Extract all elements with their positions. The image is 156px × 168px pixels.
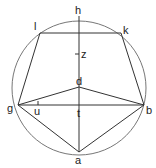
label-d: d (76, 75, 82, 87)
label-g: g (7, 102, 13, 114)
label-u: u (34, 105, 40, 117)
segment-g-a (18, 105, 79, 152)
label-l: l (34, 20, 36, 32)
label-a: a (75, 154, 82, 166)
segment-g-d (18, 87, 79, 105)
label-h: h (75, 4, 81, 16)
segment-b-a (79, 105, 144, 152)
label-z: z (81, 48, 87, 60)
label-b: b (146, 104, 152, 116)
segment-k-b (121, 33, 144, 105)
label-k: k (123, 24, 129, 36)
segment-d-b (79, 87, 144, 105)
geometry-diagram: h l k z d g u t b a (0, 0, 156, 168)
label-t: t (77, 107, 80, 119)
